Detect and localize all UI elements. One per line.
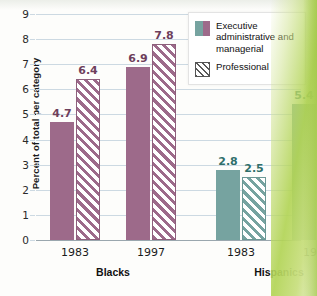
x-axis-year-label: 1983 bbox=[227, 246, 255, 259]
y-axis-tickmark bbox=[30, 240, 35, 241]
y-axis-tick-label: 9 bbox=[22, 8, 29, 20]
x-axis-group-label: Hispanics bbox=[254, 266, 304, 278]
legend: Executive administrative and managerial … bbox=[188, 12, 306, 85]
legend-item-executive[interactable]: Executive administrative and managerial bbox=[195, 20, 298, 54]
y-axis-tick-label: 2 bbox=[22, 184, 29, 196]
y-axis-tickmark bbox=[30, 89, 35, 90]
bar bbox=[152, 44, 176, 240]
bar-value-label: 2.5 bbox=[244, 162, 264, 175]
x-axis-year-label: 1997 bbox=[137, 246, 165, 259]
bar-value-label: 5.4 bbox=[294, 89, 314, 102]
page-top-shading bbox=[0, 0, 317, 10]
y-axis-tickmark bbox=[30, 190, 35, 191]
bar-value-label: 6.4 bbox=[78, 64, 98, 77]
bar-value-label: 2.8 bbox=[218, 155, 238, 168]
y-axis-tick-label: 1 bbox=[22, 209, 29, 221]
legend-label-executive: Executive administrative and managerial bbox=[216, 20, 298, 54]
y-axis-tickmark bbox=[30, 39, 35, 40]
y-axis-tick-label: 4 bbox=[22, 134, 29, 146]
bar bbox=[242, 177, 266, 240]
y-axis-tick-label: 5 bbox=[22, 108, 29, 120]
gridline bbox=[36, 240, 301, 241]
y-axis-tick-label: 6 bbox=[22, 83, 29, 95]
bar-value-label: 7.8 bbox=[154, 29, 174, 42]
y-axis-tick-label: 8 bbox=[22, 33, 29, 45]
y-axis-tick-label: 0 bbox=[22, 234, 29, 246]
legend-swatch-executive-icon bbox=[195, 21, 210, 36]
y-axis-tickmark bbox=[30, 165, 35, 166]
legend-swatch-professional-icon bbox=[195, 62, 210, 77]
bar-chart: Percent of total per category 0123456789… bbox=[0, 0, 317, 296]
y-axis-tick-label: 7 bbox=[22, 58, 29, 70]
x-axis-year-label: 1983 bbox=[61, 246, 89, 259]
bar-value-label: 4.7 bbox=[52, 107, 72, 120]
bar bbox=[76, 79, 100, 240]
y-axis-tickmark bbox=[30, 64, 35, 65]
bar bbox=[50, 122, 74, 240]
y-axis-tickmark bbox=[30, 14, 35, 15]
bar bbox=[216, 170, 240, 240]
y-axis-tickmark bbox=[30, 215, 35, 216]
y-axis-tick-label: 3 bbox=[22, 159, 29, 171]
bar bbox=[126, 67, 150, 240]
x-axis-group-label: Blacks bbox=[96, 266, 130, 278]
y-axis-tickmark bbox=[30, 114, 35, 115]
legend-label-professional: Professional bbox=[216, 61, 269, 72]
y-axis-tickmark bbox=[30, 140, 35, 141]
bar-value-label: 6.9 bbox=[128, 52, 148, 65]
x-axis-year-label: 1997 bbox=[303, 246, 317, 259]
bar bbox=[292, 104, 316, 240]
legend-item-professional[interactable]: Professional bbox=[195, 61, 298, 77]
